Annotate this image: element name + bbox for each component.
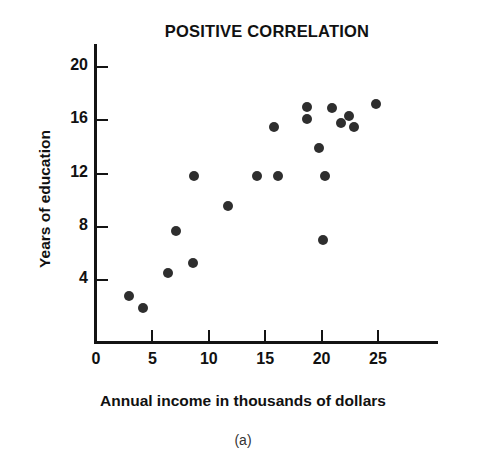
- y-axis-tick: [97, 119, 108, 121]
- data-point: [320, 171, 330, 181]
- data-point: [189, 171, 199, 181]
- data-point: [302, 114, 312, 124]
- data-point: [371, 99, 381, 109]
- x-axis-tick-label: 0: [76, 350, 116, 368]
- data-point: [252, 171, 262, 181]
- data-point: [138, 303, 148, 313]
- data-point: [223, 201, 233, 211]
- data-point: [318, 235, 328, 245]
- y-axis-tick-label: 8: [58, 216, 88, 234]
- y-axis-tick: [97, 173, 108, 175]
- data-point: [269, 122, 279, 132]
- data-point: [349, 122, 359, 132]
- data-point: [314, 143, 324, 153]
- y-axis-tick-label: 20: [58, 56, 88, 74]
- data-point: [188, 258, 198, 268]
- y-axis-tick: [97, 279, 108, 281]
- y-axis-tick-label: 4: [58, 269, 88, 287]
- y-axis-line: [94, 44, 97, 344]
- x-axis-label: Annual income in thousands of dollars: [0, 392, 486, 410]
- data-point: [336, 118, 346, 128]
- figure-caption: (a): [0, 432, 486, 448]
- y-axis-tick-label: 12: [58, 163, 88, 181]
- data-point: [302, 102, 312, 112]
- x-axis-tick-label: 10: [189, 350, 229, 368]
- x-axis-tick: [377, 330, 379, 341]
- y-axis-tick: [97, 66, 108, 68]
- scatter-plot-figure: POSITIVE CORRELATION Years of education …: [0, 0, 486, 470]
- y-axis-tick: [97, 226, 108, 228]
- x-axis-tick: [151, 330, 153, 341]
- x-axis-tick: [264, 330, 266, 341]
- x-axis-tick: [208, 330, 210, 341]
- data-point: [171, 226, 181, 236]
- x-axis-tick-label: 25: [358, 350, 398, 368]
- data-point: [344, 111, 354, 121]
- data-point: [124, 291, 134, 301]
- x-axis-tick-label: 20: [302, 350, 342, 368]
- data-point: [163, 268, 173, 278]
- x-axis-line: [94, 341, 438, 344]
- x-axis-tick: [321, 330, 323, 341]
- x-axis-tick-label: 5: [132, 350, 172, 368]
- data-point: [327, 103, 337, 113]
- y-axis-tick-label: 16: [58, 109, 88, 127]
- data-point: [273, 171, 283, 181]
- x-axis-tick-label: 15: [245, 350, 285, 368]
